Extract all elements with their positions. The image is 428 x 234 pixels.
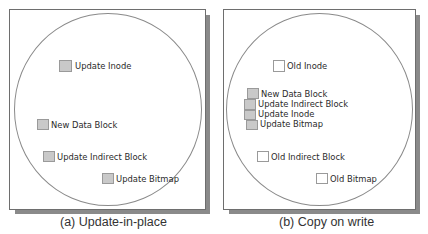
label-old-inode: Old Inode: [287, 61, 327, 71]
block-update-indirect-cow: [244, 99, 256, 110]
label-update-inode: Update Inode: [75, 61, 131, 71]
block-update-bitmap: [102, 173, 114, 184]
label-update-bitmap: Update Bitmap: [116, 174, 179, 184]
block-old-inode: [273, 60, 285, 72]
block-new-data: [37, 119, 49, 130]
block-update-inode-cow: [244, 110, 256, 120]
block-old-bitmap: [316, 173, 328, 184]
block-old-indirect: [257, 151, 269, 162]
label-update-indirect-block-cow: Update Indirect Block: [258, 99, 348, 109]
block-update-inode: [59, 60, 72, 72]
label-old-indirect-block: Old Indirect Block: [271, 152, 345, 162]
label-update-inode-cow: Update Inode: [258, 109, 314, 119]
caption-b: (b) Copy on write: [279, 215, 374, 229]
block-update-indirect: [43, 151, 55, 162]
label-new-data-block: New Data Block: [51, 120, 117, 130]
label-old-bitmap: Old Bitmap: [330, 174, 377, 184]
block-new-data-cow: [247, 88, 259, 99]
label-new-data-block-cow: New Data Block: [261, 89, 327, 99]
label-update-indirect-block: Update Indirect Block: [57, 152, 147, 162]
caption-a: (a) Update-in-place: [60, 215, 167, 229]
label-update-bitmap-cow: Update Bitmap: [260, 119, 323, 129]
block-update-bitmap-cow: [246, 120, 258, 130]
